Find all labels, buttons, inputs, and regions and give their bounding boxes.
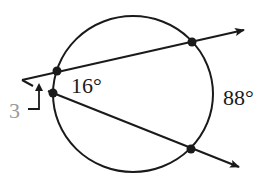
lower-secant — [48, 91, 239, 167]
secant-diagram: 16° 88° 3 — [0, 0, 276, 188]
upper-near-point — [53, 67, 62, 76]
outer-arc-label: 88° — [223, 85, 254, 110]
angle-3-label: 3 — [9, 98, 20, 123]
vertex-tick — [22, 80, 33, 86]
diagram-canvas: 16° 88° 3 — [0, 0, 276, 188]
lower-far-point — [187, 145, 196, 154]
upper-far-point — [188, 38, 197, 47]
inner-arc-label: 16° — [71, 73, 102, 98]
angle-marker-arrow-icon — [35, 83, 43, 91]
lower-near-point — [49, 89, 58, 98]
